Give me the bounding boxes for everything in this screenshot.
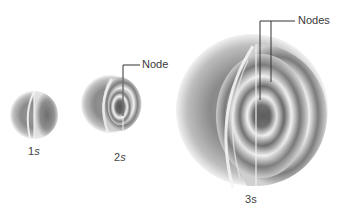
orbital-label-3s: 3s xyxy=(245,193,257,205)
orbital-2s xyxy=(81,75,141,133)
orbital-1s xyxy=(10,91,58,139)
orbital-label-2s: 2s xyxy=(114,151,126,163)
nodes-callout-label: Nodes xyxy=(298,14,330,26)
s-orbital-diagram: Node Nodes 1s 2s 3s xyxy=(0,0,342,222)
orbital-3s xyxy=(176,34,328,188)
node-callout-label: Node xyxy=(142,58,168,70)
orbital-label-1s: 1s xyxy=(28,145,40,157)
orbital-illustration xyxy=(0,0,342,222)
